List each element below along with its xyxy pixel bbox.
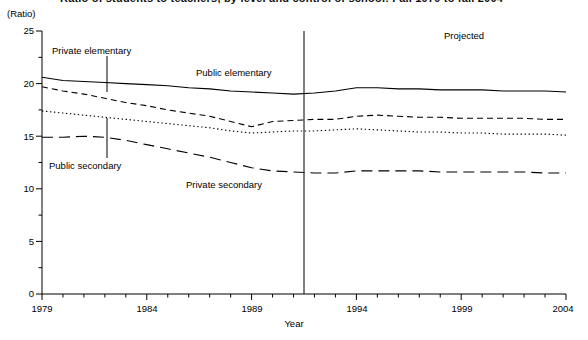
plot-area [0,0,588,340]
student-teacher-ratio-chart: Ratio of students to teachers, by level … [0,0,588,340]
axes-group [36,31,566,300]
